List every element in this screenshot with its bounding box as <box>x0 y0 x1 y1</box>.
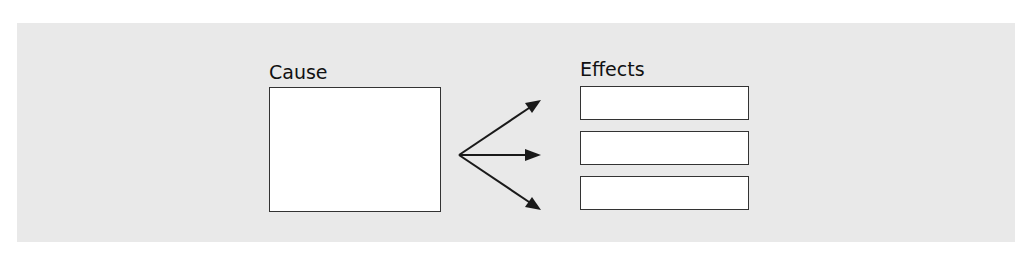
arrows <box>0 0 1032 255</box>
arrow-down-icon <box>459 155 532 204</box>
arrow-up-icon <box>459 106 532 155</box>
